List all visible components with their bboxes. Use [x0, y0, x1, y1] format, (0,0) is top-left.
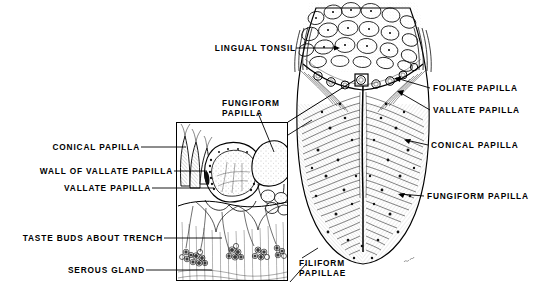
inset-frame	[176, 122, 288, 281]
label-vallate-papilla-right: VALLATE PAPILLA	[433, 105, 520, 116]
label-lingual-tonsil: LINGUAL TONSIL	[178, 43, 296, 54]
label-fungiform-papilla-top-line1: FUNGIFORM	[222, 98, 280, 109]
label-filiform-papillae-line2: PAPILLAE	[299, 268, 346, 279]
artist-mark	[404, 257, 414, 262]
label-taste-buds-about-trench: TASTE BUDS ABOUT TRENCH	[2, 233, 163, 244]
label-serous-gland: SEROUS GLAND	[44, 265, 145, 276]
label-foliate-papilla: FOLIATE PAPILLA	[433, 83, 518, 94]
anatomical-plate: LINGUAL TONSIL FUNGIFORM PAPILLA CONICAL…	[0, 0, 543, 292]
label-filiform-papillae-line1: FILIFORM	[299, 258, 345, 269]
label-fungiform-papilla-right: FUNGIFORM PAPILLA	[427, 191, 529, 202]
label-vallate-papilla-left: VALLATE PAPILLA	[32, 183, 151, 194]
tongue-body-texture	[297, 86, 429, 267]
lingual-tonsil	[296, 0, 429, 73]
label-wall-of-vallate-papilla: WALL OF VALLATE PAPILLA	[6, 166, 173, 177]
label-fungiform-papilla-top-line2: PAPILLA	[222, 108, 263, 119]
label-conical-papilla-left: CONICAL PAPILLA	[20, 142, 140, 153]
tongue-figure	[295, 0, 432, 267]
label-conical-papilla-right: CONICAL PAPILLA	[431, 140, 519, 151]
